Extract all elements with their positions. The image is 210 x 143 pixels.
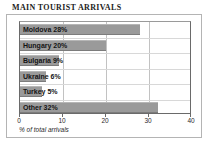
chart-screenshot: MAIN TOURIST ARRIVALS Moldova 28%Hungary… bbox=[0, 0, 210, 143]
bar-item[interactable]: Hungary 20% bbox=[20, 40, 192, 51]
bar-item[interactable]: Other 32% bbox=[20, 102, 192, 113]
bar-label: Bulgaria 9% bbox=[23, 55, 63, 66]
x-axis: 010203040 bbox=[19, 114, 191, 126]
bar-label: Moldova 28% bbox=[23, 24, 67, 35]
x-tick-label: 0 bbox=[17, 117, 21, 124]
bar-item[interactable]: Moldova 28% bbox=[20, 24, 192, 35]
x-tick-label: 20 bbox=[101, 117, 108, 124]
bar-series: Moldova 28%Hungary 20%Bulgaria 9%Ukraine… bbox=[20, 22, 190, 113]
chart-frame: Moldova 28%Hungary 20%Bulgaria 9%Ukraine… bbox=[6, 14, 202, 138]
bar-item[interactable]: Ukraine 6% bbox=[20, 71, 192, 82]
x-axis-label: % of total arrivals bbox=[19, 126, 69, 133]
bar-label: Hungary 20% bbox=[23, 40, 67, 51]
plot-area: Moldova 28%Hungary 20%Bulgaria 9%Ukraine… bbox=[19, 21, 191, 114]
bar-item[interactable]: Bulgaria 9% bbox=[20, 55, 192, 66]
bar-item[interactable]: Turkey 5% bbox=[20, 86, 192, 97]
x-tick-label: 30 bbox=[144, 117, 151, 124]
bar-label: Turkey 5% bbox=[23, 86, 58, 97]
x-tick-label: 40 bbox=[187, 117, 194, 124]
bar-label: Other 32% bbox=[23, 102, 58, 113]
page-title: MAIN TOURIST ARRIVALS bbox=[12, 3, 121, 12]
bar-label: Ukraine 6% bbox=[23, 71, 61, 82]
x-tick-label: 10 bbox=[58, 117, 65, 124]
